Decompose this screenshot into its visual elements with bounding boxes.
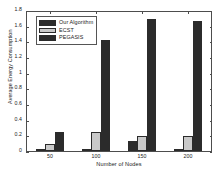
bar <box>193 21 203 151</box>
bar <box>137 136 147 151</box>
legend-swatch-icon <box>39 35 56 41</box>
x-axis-tick-label: 100 <box>86 154 106 159</box>
x-axis-tick-label: 50 <box>40 154 60 159</box>
legend-swatch-icon <box>39 28 56 34</box>
y-axis-tick-label: 1.8 <box>14 7 22 12</box>
y-axis-tick-label: 0.6 <box>14 101 22 106</box>
y-axis-tick-label: 1.6 <box>14 23 22 28</box>
y-axis-tick-label: 1.4 <box>14 38 22 43</box>
bar <box>128 141 138 151</box>
legend-item: PEGASIS <box>39 34 93 42</box>
bar <box>183 136 193 151</box>
legend-item: ECST <box>39 27 93 35</box>
y-axis-tick-label: 0 <box>19 148 22 153</box>
legend-item: Our Algorithm <box>39 19 93 27</box>
y-axis-tick-label: 0.2 <box>14 132 22 137</box>
legend-item-label: Our Algorithm <box>59 20 93 25</box>
bar <box>55 132 65 151</box>
y-axis-tick-label: 1.2 <box>14 54 22 59</box>
bar <box>91 132 101 151</box>
bar <box>45 144 55 151</box>
bar <box>82 149 92 151</box>
bar <box>147 19 157 151</box>
y-axis-tick-mark-right <box>210 152 213 153</box>
bar <box>174 149 184 151</box>
y-axis-tick-label: 0.4 <box>14 117 22 122</box>
bar <box>101 40 111 151</box>
bar <box>36 149 46 151</box>
x-axis-tick-label: 200 <box>178 154 198 159</box>
y-axis-tick-label: 1 <box>19 70 22 75</box>
legend-item-label: ECST <box>59 28 74 33</box>
x-axis-tick-label: 150 <box>132 154 152 159</box>
chart-legend: Our AlgorithmECSTPEGASIS <box>36 16 97 45</box>
legend-item-label: PEGASIS <box>59 35 83 40</box>
y-axis-tick-label: 0.8 <box>14 85 22 90</box>
y-axis-title: Average Energy Consumption <box>8 12 13 122</box>
x-axis-title: Number of Nodes <box>26 162 212 168</box>
y-axis-tick-mark <box>26 152 29 153</box>
bar-chart-figure: 00.20.40.60.811.21.41.61.8 Average Energ… <box>0 0 219 174</box>
legend-swatch-icon <box>39 20 56 26</box>
